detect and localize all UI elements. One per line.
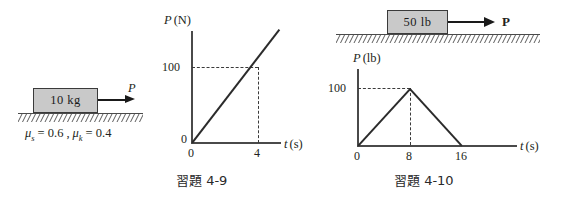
left-ground-hatching bbox=[18, 114, 143, 122]
right-chart-y-axis bbox=[357, 69, 359, 146]
right-chart-line-fall bbox=[409, 88, 462, 146]
mu-static-value: = 0.6 bbox=[38, 126, 64, 140]
left-chart-ylabel-symbol: P bbox=[164, 13, 172, 27]
right-chart-x-axis bbox=[357, 145, 517, 147]
left-chart-xlabel: t(s) bbox=[284, 138, 303, 151]
right-chart-xlabel-symbol: t bbox=[520, 139, 523, 153]
right-block-label: 50 lb bbox=[404, 15, 432, 30]
left-chart-xtick-0: 0 bbox=[188, 147, 194, 159]
right-force-arrow-shaft bbox=[448, 21, 487, 23]
right-block-diagram: 50 lb P bbox=[336, 8, 566, 48]
right-chart-xlabel: t(s) bbox=[520, 140, 539, 153]
left-chart-ytick-100: 100 bbox=[162, 61, 180, 73]
right-force-label: P bbox=[502, 15, 510, 28]
left-force-arrow-shaft bbox=[98, 99, 127, 101]
left-problem-caption: 習題 4-9 bbox=[176, 174, 227, 187]
right-chart-xlabel-unit: (s) bbox=[525, 139, 538, 153]
left-chart-ytick-0: 0 bbox=[181, 133, 187, 145]
left-chart-line bbox=[191, 29, 279, 143]
friction-comma: , bbox=[66, 126, 69, 140]
left-chart-xlabel-symbol: t bbox=[284, 137, 287, 151]
left-block-diagram: 10 kg P μs= 0.6,μk= 0.4 bbox=[18, 86, 158, 136]
right-chart-ylabel-symbol: P bbox=[353, 51, 361, 65]
right-chart-xtick-16: 16 bbox=[455, 150, 467, 162]
right-chart-dash-t8 bbox=[410, 88, 411, 145]
left-chart-ylabel-unit: (N) bbox=[174, 13, 191, 27]
mu-static-subscript: s bbox=[31, 133, 34, 143]
friction-coefficients: μs= 0.6,μk= 0.4 bbox=[25, 127, 111, 142]
left-chart: P(N) 100 0 0 4 t(s) bbox=[160, 12, 290, 167]
right-force-arrow-head bbox=[484, 17, 495, 27]
right-chart-line-rise bbox=[357, 88, 410, 146]
right-chart-ylabel: P(lb) bbox=[353, 52, 381, 65]
right-ground-hatching bbox=[336, 35, 540, 43]
right-block: 50 lb bbox=[387, 10, 448, 34]
left-block: 10 kg bbox=[33, 88, 98, 113]
left-chart-ylabel: P(N) bbox=[164, 14, 191, 27]
mu-kinetic-subscript: k bbox=[79, 133, 83, 143]
left-chart-xlabel-unit: (s) bbox=[289, 137, 302, 151]
mu-kinetic-value: = 0.4 bbox=[86, 126, 112, 140]
left-chart-dash-t4 bbox=[258, 67, 259, 143]
right-chart-xtick-0: 0 bbox=[354, 150, 360, 162]
left-force-arrow-head bbox=[125, 95, 135, 103]
left-chart-x-axis bbox=[191, 142, 281, 144]
right-chart: P(lb) 100 0 8 16 t(s) bbox=[320, 52, 540, 167]
left-force-label: P bbox=[128, 82, 136, 95]
left-chart-xtick-4: 4 bbox=[254, 147, 260, 159]
right-chart-ylabel-unit: (lb) bbox=[363, 51, 381, 65]
right-chart-ytick-100: 100 bbox=[328, 82, 346, 94]
right-chart-dash-100 bbox=[358, 88, 410, 89]
left-block-label: 10 kg bbox=[50, 93, 81, 108]
right-problem-caption: 習題 4-10 bbox=[394, 174, 454, 187]
right-chart-xtick-8: 8 bbox=[406, 150, 412, 162]
left-chart-y-axis bbox=[191, 31, 193, 143]
